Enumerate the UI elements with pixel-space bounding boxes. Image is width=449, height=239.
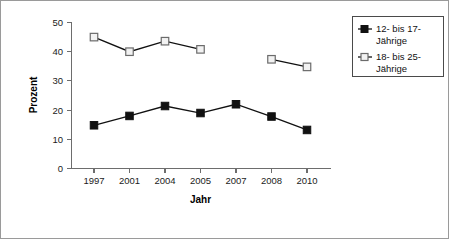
data-point-2004-series-2 [161,37,169,45]
legend-label-18-25-line2: Jährige [376,63,407,74]
y-axis-title: Prozent [28,76,39,113]
x-axis: 1997 2001 2004 2005 2007 2008 2010 Jahr [72,169,332,206]
series-2-line [272,59,308,67]
data-point-2008-series-1 [268,113,276,121]
data-point-2010-series-1 [303,126,311,133]
legend-label-18-25-line1: 18- bis 25- [376,51,421,62]
legend-label-12-17-line2: Jährige [376,35,407,46]
y-tick-label-50: 50 [52,17,63,28]
data-point-1997-series-1 [90,122,98,130]
x-tick-label-2007: 2007 [225,175,246,186]
series-1 [90,101,311,134]
x-axis-title: Jahr [190,194,211,205]
series-2 [90,33,311,70]
legend: 12- bis 17- Jährige 18- bis 25- Jährige [353,17,444,77]
data-point-1997-series-2 [90,33,98,41]
y-tick-label-0: 0 [58,163,63,174]
data-point-2004-series-1 [161,102,169,110]
x-tick-label-2001: 2001 [119,175,140,186]
series-2-line [94,37,201,52]
y-axis: 50 40 30 20 10 0 Prozent [28,17,72,174]
y-tick-label-40: 40 [52,46,63,57]
series-layer [90,33,311,133]
y-tick-label-20: 20 [52,105,63,116]
chart-figure: 50 40 30 20 10 0 Prozent 1997 2001 2004 … [0,0,449,239]
data-point-2005-series-2 [197,46,205,54]
x-tick-label-1997: 1997 [83,175,104,186]
data-point-2007-series-1 [232,101,240,109]
legend-marker-filled-square-icon [361,26,368,33]
legend-label-12-17-line1: 12- bis 17- [376,23,421,34]
data-point-2001-series-1 [126,112,134,120]
y-tick-label-10: 10 [52,134,63,145]
x-tick-label-2008: 2008 [261,175,282,186]
y-tick-label-30: 30 [52,75,63,86]
data-point-2008-series-2 [268,56,276,64]
legend-marker-open-square-icon [361,54,368,61]
data-point-2010-series-2 [303,63,311,71]
x-tick-label-2005: 2005 [190,175,211,186]
x-tick-label-2010: 2010 [296,175,317,186]
line-chart: 50 40 30 20 10 0 Prozent 1997 2001 2004 … [1,1,449,239]
x-tick-label-2004: 2004 [154,175,175,186]
data-point-2001-series-2 [126,48,134,56]
data-point-2005-series-1 [197,109,205,117]
